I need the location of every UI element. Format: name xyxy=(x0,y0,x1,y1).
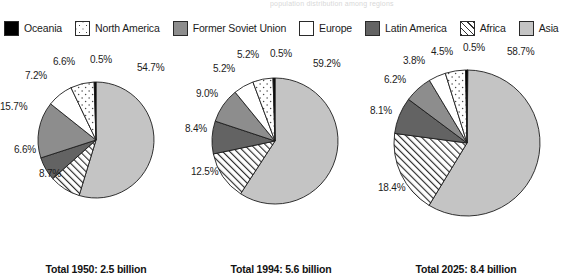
legend-item-latin: Latin America xyxy=(365,21,460,36)
pie-value-label: 8.7% xyxy=(39,168,61,179)
pie-value-label: 0.5% xyxy=(463,42,485,53)
legend-item-europe: Europe xyxy=(299,21,365,36)
legend-label-oceania: Oceania xyxy=(24,22,62,34)
legend-swatch-africa xyxy=(460,21,475,36)
pie-caption-1950: Total 1950: 2.5 billion xyxy=(0,263,192,275)
legend-item-africa: Africa xyxy=(460,21,519,36)
chart-page: population distribution among regions Oc… xyxy=(0,0,577,278)
legend-item-northamerica: North America xyxy=(75,21,173,36)
pie-value-label: 6.6% xyxy=(14,144,36,155)
pie-chart-1994: 59.2%0.5%5.2%5.2%9.0%8.4%12.5% Total 199… xyxy=(185,44,377,278)
legend-label-europe: Europe xyxy=(319,22,352,34)
pie-value-label: 5.2% xyxy=(213,63,235,74)
legend-swatch-asia xyxy=(519,21,534,36)
chart-legend: OceaniaNorth AmericaFormer Soviet UnionE… xyxy=(4,16,573,40)
pie-area-2025: 58.7%0.5%4.5%3.8%6.2%8.1%18.4% xyxy=(370,44,562,244)
pie-value-label: 6.6% xyxy=(53,56,75,67)
pie-caption-1994: Total 1994: 5.6 billion xyxy=(185,263,377,275)
pie-value-label: 5.2% xyxy=(237,49,259,60)
pie-value-label: 9.0% xyxy=(196,88,218,99)
legend-swatch-latin xyxy=(365,21,380,36)
pie-value-label: 54.7% xyxy=(137,62,164,73)
legend-label-fsu: Former Soviet Union xyxy=(193,22,286,34)
pie-value-label: 8.1% xyxy=(370,105,392,116)
pie-area-1950: 54.7%0.5%6.6%7.2%15.7%6.6%8.7% xyxy=(0,44,192,244)
legend-label-asia: Asia xyxy=(539,22,559,34)
legend-label-latin: Latin America xyxy=(385,22,447,34)
legend-label-africa: Africa xyxy=(480,22,506,34)
legend-swatch-oceania xyxy=(4,21,19,36)
legend-swatch-northamerica xyxy=(75,21,90,36)
pie-chart-1950: 54.7%0.5%6.6%7.2%15.7%6.6%8.7% Total 195… xyxy=(0,44,192,278)
legend-swatch-fsu xyxy=(173,21,188,36)
pie-chart-2025: 58.7%0.5%4.5%3.8%6.2%8.1%18.4% Total 202… xyxy=(370,44,562,278)
pie-area-1994: 59.2%0.5%5.2%5.2%9.0%8.4%12.5% xyxy=(185,44,377,244)
pie-value-label: 12.5% xyxy=(191,166,218,177)
pie-value-label: 59.2% xyxy=(313,58,340,69)
pie-value-label: 0.5% xyxy=(270,48,292,59)
pie-charts-row: 54.7%0.5%6.6%7.2%15.7%6.6%8.7% Total 195… xyxy=(0,44,577,278)
pie-value-label: 15.7% xyxy=(0,101,27,112)
pie-value-label: 7.2% xyxy=(25,70,47,81)
pie-value-label: 18.4% xyxy=(378,182,405,193)
legend-label-northamerica: North America xyxy=(95,22,160,34)
pie-value-label: 0.5% xyxy=(90,54,112,65)
pie-value-label: 8.4% xyxy=(185,123,207,134)
legend-item-oceania: Oceania xyxy=(4,21,75,36)
legend-item-fsu: Former Soviet Union xyxy=(173,21,299,36)
legend-swatch-europe xyxy=(299,21,314,36)
legend-item-asia: Asia xyxy=(519,21,572,36)
pie-svg-1994 xyxy=(185,44,377,244)
pie-value-label: 4.5% xyxy=(431,46,453,57)
pie-value-label: 58.7% xyxy=(507,46,534,57)
pie-value-label: 6.2% xyxy=(384,74,406,85)
pie-value-label: 3.8% xyxy=(403,55,425,66)
clipped-top-title: population distribution among regions xyxy=(270,0,570,9)
pie-caption-2025: Total 2025: 8.4 billion xyxy=(370,263,562,275)
